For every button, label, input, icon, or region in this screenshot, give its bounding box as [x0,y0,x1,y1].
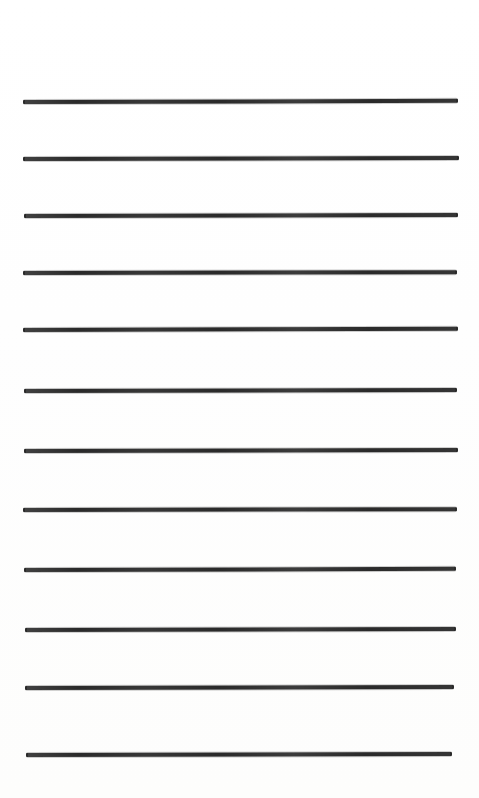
rule-line [24,448,458,453]
rule-line [25,627,456,632]
rule-line [23,99,458,104]
rule-line [25,685,454,690]
ruled-lines-group [0,0,479,798]
rule-line [23,156,459,161]
rule-line [24,567,456,572]
rule-line [23,327,458,332]
bottom-margin-blank-area [0,757,479,798]
rule-line [23,270,457,275]
rule-line [23,507,457,512]
rule-line [24,213,458,218]
rule-line [24,388,457,393]
scanned-page [0,0,479,798]
